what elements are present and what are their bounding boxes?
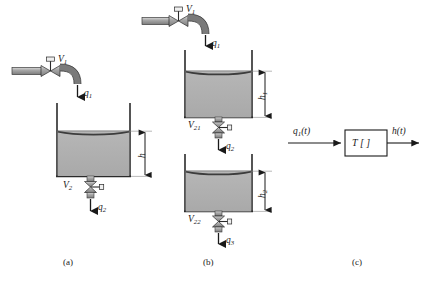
panel-b-inflow-label: q1 xyxy=(212,39,220,49)
panel-a-inflow-label: q1 xyxy=(84,89,92,99)
figure-container: V1 q1 h V2 q2 V1 q1 h1 V21 q2 h2 V22 q3 … xyxy=(0,0,424,281)
panel-caption-b: (b) xyxy=(203,258,214,267)
panel-a-drawing xyxy=(12,57,152,211)
panel-b-tank2-height-label: h2 xyxy=(258,190,268,198)
panel-a-inlet-valve-label: V1 xyxy=(58,55,67,65)
panel-a-height-label: h xyxy=(138,153,148,158)
panel-caption-a: (a) xyxy=(63,258,73,267)
panel-c-output-label: h(t) xyxy=(392,127,406,137)
panel-b-mid-valve-label: V21 xyxy=(188,121,201,131)
panel-a-outlet-valve-icon xyxy=(85,182,104,193)
panel-c-input-label: q1(t) xyxy=(293,127,310,137)
panel-b-tank1-height-label: h1 xyxy=(258,92,268,100)
panel-a-outflow-label: q2 xyxy=(98,203,106,213)
panel-b-outlet-valve-icon xyxy=(213,216,232,227)
panel-caption-c: (c) xyxy=(352,258,362,267)
panel-b-drawing xyxy=(142,7,272,244)
panel-c-block-label: T [ ] xyxy=(352,138,370,148)
panel-b-mid-flow-label: q2 xyxy=(226,142,234,152)
panel-b-outlet-valve-label: V22 xyxy=(188,215,201,225)
panel-b-outflow-label: q3 xyxy=(226,236,234,246)
panel-b-inlet-valve-label: V1 xyxy=(186,5,195,15)
panel-b-mid-valve-icon xyxy=(213,122,232,133)
panel-a-outlet-valve-label: V2 xyxy=(63,181,72,191)
